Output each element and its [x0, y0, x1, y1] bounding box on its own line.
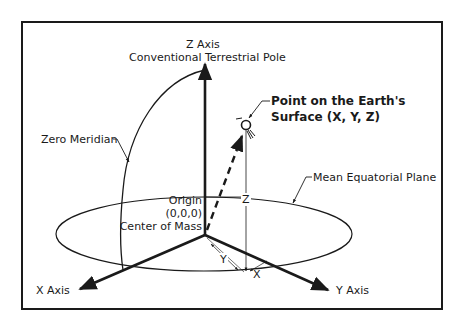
- equatorial-plane-label: Mean Equatorial Plane: [313, 171, 436, 184]
- x-component-label: X: [253, 268, 261, 281]
- surface-point-marker: [242, 121, 251, 130]
- position-vector-dashed: [207, 136, 242, 230]
- z-axis-label: Z Axis: [186, 38, 220, 51]
- x-axis-line: [80, 235, 205, 289]
- center-of-mass-label: Center of Mass: [112, 220, 202, 233]
- y-axis-label: Y Axis: [336, 284, 369, 297]
- y-component-label: Y: [219, 253, 228, 266]
- point-leader: [249, 101, 270, 118]
- point-label-line2: Surface (X, Y, Z): [271, 110, 380, 125]
- equatorial-plane-leader: [293, 177, 312, 203]
- ecef-diagram: [0, 0, 460, 326]
- x-axis-label: X Axis: [36, 284, 70, 297]
- origin-label: Origin: [160, 194, 202, 207]
- z-axis-sublabel: Conventional Terrestrial Pole: [129, 51, 286, 64]
- zero-meridian-label: Zero Meridian: [41, 133, 117, 146]
- z-component-label: Z: [241, 193, 251, 206]
- origin-coords-label: (0,0,0): [160, 207, 202, 220]
- diagram-frame: [22, 22, 442, 309]
- point-label-line1: Point on the Earth's: [271, 94, 405, 109]
